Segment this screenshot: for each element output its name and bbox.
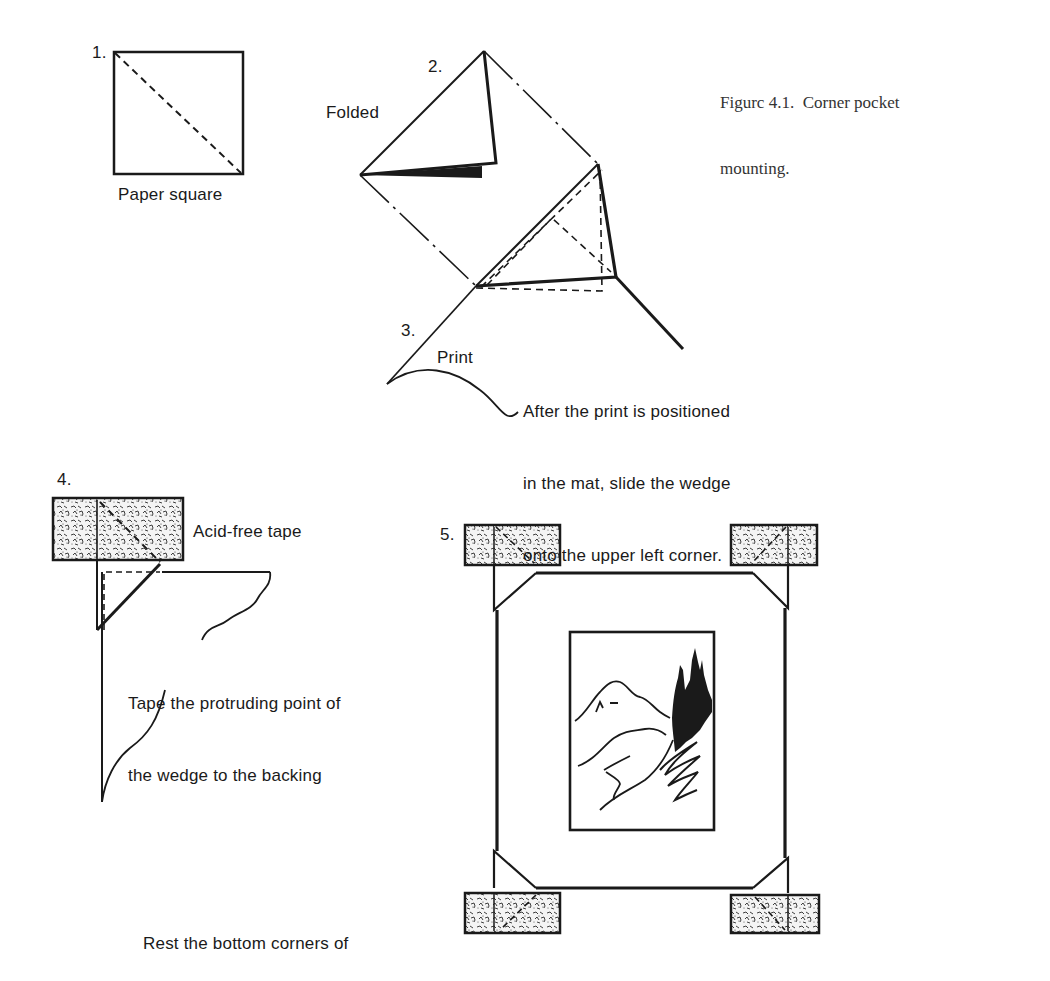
step1-number: 1. (92, 42, 107, 63)
caption-line-1: Figurc 4.1. Corner pocket (720, 92, 899, 114)
step3-note-line-1: After the print is positioned (523, 400, 731, 424)
step2-number: 2. (428, 56, 443, 77)
step2-label: Folded (326, 102, 379, 123)
step5-note-line-1: Rest the bottom corners of (143, 932, 349, 956)
figure-caption: Figurc 4.1. Corner pocket mounting. (720, 48, 899, 202)
step1-label: Paper square (118, 184, 222, 205)
step3-note-line-3: onto the upper left corner. (523, 544, 731, 568)
step5-number: 5. (440, 524, 455, 545)
step2-folded-square (360, 51, 598, 286)
step3-label: Print (437, 347, 473, 368)
step3-number: 3. (401, 320, 416, 341)
step4-number: 4. (57, 469, 72, 490)
step4-label: Acid-free tape (193, 521, 302, 542)
step4-note: Tape the protruding point of the wedge t… (128, 644, 341, 812)
step4-note-line-2: the wedge to the backing (128, 764, 341, 788)
step4-note-line-1: Tape the protruding point of (128, 692, 341, 716)
step5-note: Rest the bottom corners of the print in … (143, 884, 349, 981)
step3-note-line-2: in the mat, slide the wedge (523, 472, 731, 496)
step1-paper-square (114, 52, 243, 174)
step3-note: After the print is positioned in the mat… (523, 352, 731, 592)
caption-line-2: mounting. (720, 158, 899, 180)
